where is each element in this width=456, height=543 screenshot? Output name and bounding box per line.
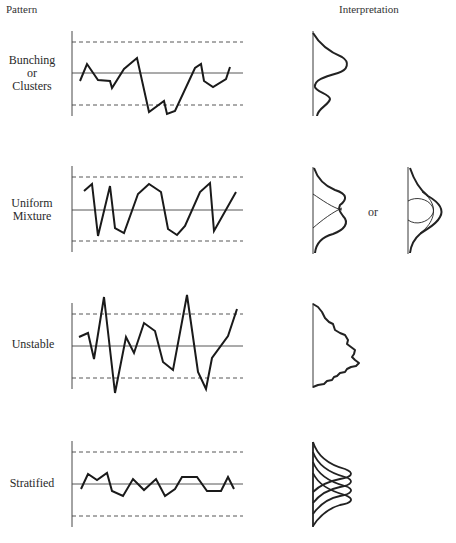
data-series	[84, 183, 236, 236]
distribution-bimodal-icon	[313, 31, 347, 116]
distribution-unstable-icon	[313, 303, 359, 388]
data-series	[81, 473, 234, 496]
data-series	[80, 58, 230, 114]
distribution-mixture-icon	[313, 167, 346, 254]
control-chart-3	[72, 441, 243, 527]
control-charts	[72, 31, 243, 527]
control-chart-2	[72, 295, 243, 393]
distribution-overlap-icon	[408, 167, 442, 254]
control-chart-1	[72, 166, 243, 252]
diagram-canvas	[0, 0, 456, 543]
distribution-stratified-icon	[313, 442, 351, 527]
control-chart-0	[72, 31, 243, 116]
